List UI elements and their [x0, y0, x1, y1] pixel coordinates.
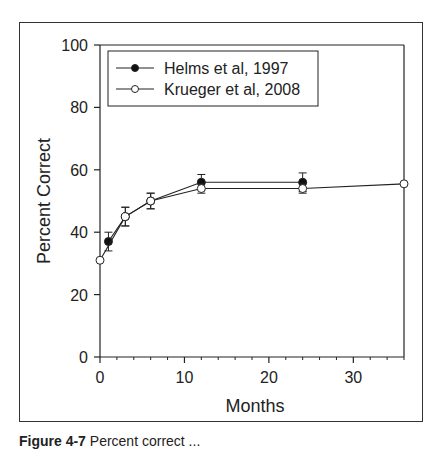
x-tick-label: 30 — [344, 369, 362, 386]
open-circle-marker — [299, 185, 307, 193]
open-circle-marker — [400, 180, 408, 188]
legend-filled-marker — [132, 65, 139, 72]
y-tick-label: 100 — [61, 37, 88, 54]
caption-label: Figure 4-7 — [19, 433, 86, 449]
y-tick-label: 20 — [70, 287, 88, 304]
series-line-0 — [108, 182, 302, 241]
x-tick-label: 20 — [260, 369, 278, 386]
legend-open-marker — [132, 86, 139, 93]
series-line-1 — [100, 184, 404, 260]
y-tick-label: 0 — [79, 349, 88, 366]
legend-label: Helms et al, 1997 — [164, 60, 289, 77]
x-tick-label: 0 — [96, 369, 105, 386]
y-tick-label: 40 — [70, 224, 88, 241]
y-axis-label: Percent Correct — [34, 138, 54, 264]
y-tick-label: 80 — [70, 99, 88, 116]
y-tick-label: 60 — [70, 162, 88, 179]
x-axis-label: Months — [225, 396, 284, 416]
figure-caption: Figure 4-7 Percent correct ... — [19, 433, 200, 449]
x-tick-label: 10 — [176, 369, 194, 386]
legend-label: Krueger et al, 2008 — [164, 81, 300, 98]
open-circle-marker — [197, 185, 205, 193]
open-circle-marker — [96, 256, 104, 264]
open-circle-marker — [121, 213, 129, 221]
open-circle-marker — [147, 197, 155, 205]
caption-text: Percent correct ... — [90, 433, 200, 449]
